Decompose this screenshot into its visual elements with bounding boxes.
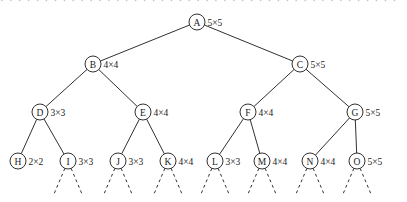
node-size-label-k: 4×4	[179, 157, 194, 167]
node-size-label-o: 5×5	[368, 157, 383, 167]
tree-node-f[interactable]: F4×4	[240, 104, 274, 120]
tree-node-g[interactable]: G5×5	[347, 104, 381, 120]
tree-node-n[interactable]: N4×4	[302, 153, 336, 169]
continuation-edge-layer	[54, 168, 371, 194]
node-letter-a: A	[194, 18, 201, 28]
continuation-edge-i-0	[54, 168, 65, 194]
continuation-edge-n-11	[313, 168, 324, 194]
node-letter-e: E	[140, 108, 146, 118]
node-letter-c: C	[297, 60, 303, 70]
tree-node-a[interactable]: A5×5	[189, 14, 223, 30]
tree-edge-g-o	[355, 120, 356, 153]
continuation-edge-k-4	[154, 168, 165, 194]
continuation-edge-l-7	[218, 168, 229, 194]
continuation-edge-j-3	[121, 168, 132, 194]
continuation-edge-i-1	[71, 168, 82, 194]
tree-node-o[interactable]: O5×5	[349, 153, 383, 169]
tree-node-h[interactable]: H2×2	[10, 153, 44, 169]
tree-node-i[interactable]: I3×3	[60, 153, 94, 169]
node-size-label-n: 4×4	[321, 157, 336, 167]
node-size-label-f: 4×4	[259, 108, 274, 118]
node-letter-b: B	[90, 60, 96, 70]
continuation-edge-o-13	[360, 168, 371, 194]
node-size-label-j: 3×3	[129, 157, 144, 167]
node-size-label-l: 3×3	[226, 157, 241, 167]
node-letter-j: J	[116, 157, 120, 167]
edge-layer	[21, 25, 356, 155]
node-letter-k: K	[165, 157, 172, 167]
node-letter-g: G	[352, 108, 359, 118]
tree-node-e[interactable]: E4×4	[135, 104, 169, 120]
continuation-edge-n-10	[296, 168, 307, 194]
tree-node-c[interactable]: C5×5	[292, 56, 326, 72]
node-size-label-i: 3×3	[79, 157, 94, 167]
tree-edge-c-g	[306, 69, 349, 106]
node-letter-d: D	[37, 108, 44, 118]
tree-edge-d-h	[21, 119, 36, 153]
node-size-label-a: 5×5	[208, 18, 223, 28]
tree-edge-b-e	[99, 70, 137, 107]
node-letter-m: M	[258, 157, 267, 167]
tree-edge-e-k	[147, 119, 165, 154]
tree-node-m[interactable]: M4×4	[254, 153, 288, 169]
tree-edge-g-n	[315, 118, 349, 155]
continuation-edge-k-5	[171, 168, 182, 194]
node-letter-h: H	[15, 157, 22, 167]
continuation-edge-l-6	[201, 168, 212, 194]
node-size-label-m: 4×4	[273, 157, 288, 167]
node-size-label-h: 2×2	[29, 157, 44, 167]
continuation-edge-m-9	[265, 168, 276, 194]
continuation-edge-o-12	[343, 168, 354, 194]
tree-edge-d-i	[44, 119, 64, 154]
node-size-label-g: 5×5	[366, 108, 381, 118]
tree-node-b[interactable]: B4×4	[85, 56, 119, 72]
node-size-label-c: 5×5	[311, 60, 326, 70]
tree-canvas: A5×5B4×4C5×5D3×3E4×4F4×4G5×5H2×2I3×3J3×3…	[0, 0, 407, 202]
tree-node-l[interactable]: L3×3	[207, 153, 241, 169]
node-size-label-e: 4×4	[154, 108, 169, 118]
tree-node-k[interactable]: K4×4	[160, 153, 194, 169]
continuation-edge-m-8	[248, 168, 259, 194]
node-letter-i: I	[66, 157, 69, 167]
tree-edge-b-d	[46, 69, 87, 106]
node-letter-o: O	[354, 157, 361, 167]
tree-edge-a-c	[204, 25, 292, 61]
tree-edge-f-m	[250, 120, 260, 154]
tree-node-d[interactable]: D3×3	[32, 104, 66, 120]
tree-diagram-figure: · · · · · · · · · · · · · · · · · · · · …	[0, 0, 407, 202]
node-size-label-d: 3×3	[51, 108, 66, 118]
tree-edge-a-b	[100, 25, 189, 61]
node-layer: A5×5B4×4C5×5D3×3E4×4F4×4G5×5H2×2I3×3J3×3…	[10, 14, 383, 169]
tree-edge-c-f	[254, 69, 294, 106]
continuation-edge-j-2	[104, 168, 115, 194]
tree-edge-f-l	[219, 119, 243, 155]
node-letter-l: L	[212, 157, 218, 167]
node-letter-n: N	[307, 157, 314, 167]
tree-edge-e-j	[122, 119, 140, 154]
node-letter-f: F	[245, 108, 250, 118]
node-size-label-b: 4×4	[104, 60, 119, 70]
tree-node-j[interactable]: J3×3	[110, 153, 144, 169]
